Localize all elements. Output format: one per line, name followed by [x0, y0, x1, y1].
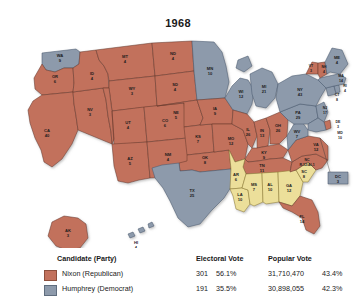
state-VT[interactable]: [306, 62, 318, 74]
svg-text:MD: MD: [337, 131, 343, 135]
svg-text:10: 10: [338, 136, 342, 140]
electoral-map: WA9 OR6 CA40 NV3 ID4 MT4 WY3 UT4 AZ5 CO6…: [0, 26, 356, 248]
legend-electoral-pct: 56.1%: [216, 269, 236, 278]
legend-header-candidate: Candidate (Party): [57, 254, 117, 263]
state-TX[interactable]: [152, 163, 233, 227]
state-LA[interactable]: [230, 188, 250, 212]
svg-text:RI: RI: [343, 84, 347, 88]
legend-electoral-votes: 191: [196, 284, 208, 293]
svg-text:4: 4: [135, 245, 138, 248]
state-ND[interactable]: [152, 41, 194, 76]
svg-text:DE: DE: [336, 120, 342, 124]
svg-text:HI: HI: [134, 240, 138, 245]
state-HI[interactable]: [128, 222, 154, 238]
us-map-svg: WA9 OR6 CA40 NV3 ID4 MT4 WY3 UT4 AZ5 CO6…: [0, 26, 356, 248]
state-WY[interactable]: [109, 76, 157, 111]
legend-candidate-name: Humphrey (Democrat): [62, 284, 133, 293]
legend-electoral-votes: 301: [196, 269, 208, 278]
state-KS[interactable]: [184, 124, 214, 155]
legend-popular-pct: 43.4%: [322, 269, 342, 278]
legend-electoral-pct: 35.5%: [216, 284, 236, 293]
legend-row-humphrey[interactable]: Humphrey (Democrat) 191 35.5% 30,898,055…: [0, 284, 356, 300]
state-DC-box[interactable]: [328, 172, 348, 184]
state-AL[interactable]: [262, 172, 279, 204]
legend-candidate-name: Nixon (Republican): [62, 269, 123, 278]
svg-text:8: 8: [336, 98, 338, 102]
legend-popular-pct: 42.3%: [322, 284, 342, 293]
state-AK[interactable]: [48, 216, 88, 248]
legend: Candidate (Party) Electoral Vote Popular…: [0, 250, 356, 306]
state-CA[interactable]: [28, 92, 78, 167]
legend-row-nixon[interactable]: Nixon (Republican) 301 56.1% 31,710,470 …: [0, 269, 356, 285]
svg-text:3: 3: [337, 125, 339, 129]
state-MN[interactable]: [192, 41, 229, 100]
legend-header-popular: Popular Vote: [268, 254, 312, 263]
legend-popular-votes: 31,710,470: [268, 269, 304, 278]
state-CO[interactable]: [144, 103, 187, 142]
svg-text:4: 4: [344, 89, 346, 93]
legend-header-electoral: Electoral Vote: [196, 254, 243, 263]
state-ME[interactable]: [325, 48, 348, 74]
legend-swatch-democrat: [44, 285, 57, 296]
legend-swatch-republican: [44, 270, 57, 281]
legend-popular-votes: 30,898,055: [268, 284, 304, 293]
state-AZ[interactable]: [112, 142, 150, 183]
